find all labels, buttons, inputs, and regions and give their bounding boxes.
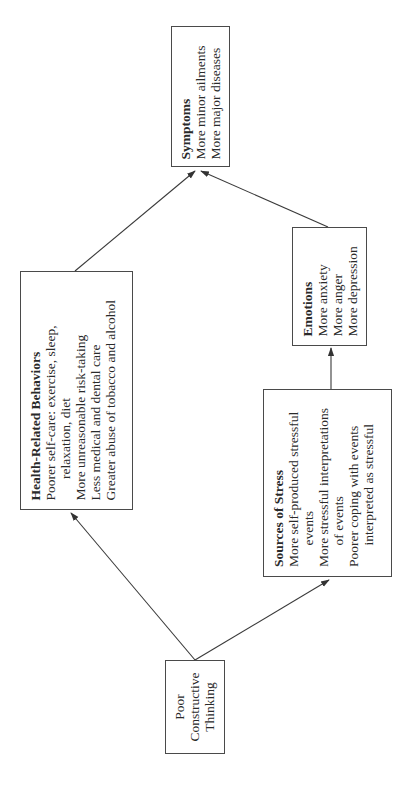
stress-item: events [300,393,315,567]
health-behavior-item: relaxation, diet [57,277,72,500]
arrow-emotions-to-symptoms [201,171,328,227]
emotions-title: Emotions [299,233,314,336]
stress-item: More stressful interpretations [315,393,330,567]
symptoms-item: More minor ailments [192,32,207,159]
stress-item: of events [330,393,345,567]
health-behavior-item: Less medical and dental care [87,277,102,500]
arrow-thinking-to-health [71,513,195,660]
stress-item: Poorer coping with events [345,393,360,567]
emotions-box: Emotions More anxiety More anger More de… [292,227,367,346]
emotions-item: More anxiety [314,233,329,336]
stress-title: Sources of Stress [270,393,285,567]
symptoms-box: Symptoms More minor ailments More major … [171,26,230,167]
stress-item: More self-produced stressful [285,393,300,567]
health-behaviors-box: Health-Related Behaviors Poorer self-car… [20,271,133,510]
poor-constructive-thinking-box: Poor Constructive Thinking [165,660,225,754]
health-behavior-item: Poorer self-care: exercise, sleep, [42,277,57,500]
thinking-line: Thinking [202,660,217,754]
thinking-line: Constructive [187,660,202,754]
sources-of-stress-box: Sources of Stress More self-produced str… [263,389,392,577]
health-behavior-item: Greater abuse of tobacco and alcohol [102,277,117,500]
emotions-item: More anger [329,233,344,336]
stress-item: interpreted as stressful [360,393,375,567]
symptoms-item: More major diseases [207,32,222,159]
symptoms-title: Symptoms [177,32,192,159]
thinking-line: Poor [172,660,187,754]
emotions-item: More depression [344,233,359,336]
arrow-health-to-symptoms [75,171,195,271]
health-behavior-item: More unreasonable risk-taking [72,277,87,500]
arrow-thinking-to-stress [195,580,329,660]
health-behaviors-title: Health-Related Behaviors [27,277,42,500]
